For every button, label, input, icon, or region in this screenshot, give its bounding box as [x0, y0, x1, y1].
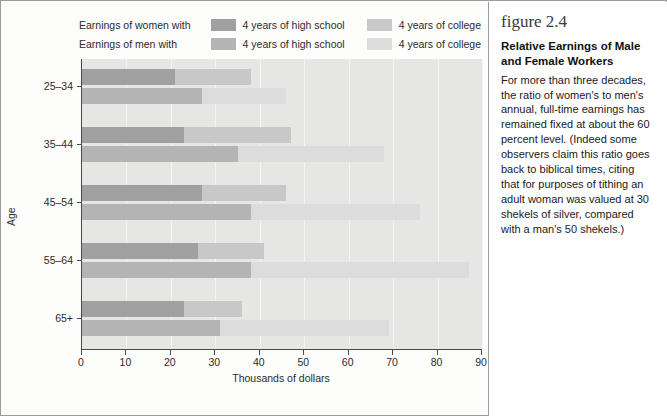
gridline [482, 59, 483, 349]
x-tick-label: 40 [253, 356, 265, 368]
legend-swatch-women-college [367, 19, 392, 31]
bar-men [82, 204, 420, 220]
bar-segment-women-college [184, 127, 291, 143]
bar-men [82, 262, 469, 278]
bar-segment-women-highschool [82, 243, 198, 259]
bar-men [82, 146, 384, 162]
category-label: 25–34 [44, 80, 73, 92]
bar-group [82, 291, 482, 349]
bar-segment-women-highschool [82, 127, 184, 143]
plot-region: 25–3435–4445–5455–6465+ [81, 59, 482, 350]
bar-women [82, 185, 286, 201]
chart-legend: Earnings of women with 4 years of high s… [79, 15, 481, 55]
x-tick-label: 10 [120, 356, 132, 368]
x-tick [170, 350, 171, 355]
x-tick-label: 50 [297, 356, 309, 368]
y-axis-label: Age [5, 207, 17, 226]
x-tick-label: 60 [342, 356, 354, 368]
bar-segment-men-highschool [82, 204, 251, 220]
legend-row-women: Earnings of women with 4 years of high s… [79, 15, 481, 34]
category-tick [77, 86, 82, 87]
figure-number: figure 2.4 [501, 12, 655, 32]
figure-caption-panel: figure 2.4 Relative Earnings of Male and… [488, 2, 667, 416]
bar-segment-women-college [175, 69, 251, 85]
x-tick [348, 350, 349, 355]
legend-label-women-hs: 4 years of high school [243, 19, 345, 31]
legend-lead-women: Earnings of women with [79, 19, 211, 31]
bar-segment-women-college [184, 301, 242, 317]
x-tick-label: 80 [431, 356, 443, 368]
figure-panel: Earnings of women with 4 years of high s… [0, 0, 667, 416]
x-tick [303, 350, 304, 355]
category-tick [77, 260, 82, 261]
x-tick-label: 30 [208, 356, 220, 368]
bar-segment-men-highschool [82, 146, 238, 162]
category-tick [77, 318, 82, 319]
category-label: 45–54 [44, 196, 73, 208]
x-tick-label: 0 [78, 356, 84, 368]
x-axis-label: Thousands of dollars [81, 372, 481, 384]
x-tick [392, 350, 393, 355]
x-tick [481, 350, 482, 355]
legend-lead-men: Earnings of men with [79, 38, 211, 50]
legend-swatch-men-college [367, 38, 392, 50]
bar-segment-men-highschool [82, 262, 251, 278]
x-tick [81, 350, 82, 355]
legend-row-men: Earnings of men with 4 years of high sch… [79, 34, 481, 53]
bar-segment-women-college [202, 185, 286, 201]
x-tick [214, 350, 215, 355]
bar-segment-women-college [198, 243, 265, 259]
bar-segment-men-highschool [82, 320, 220, 336]
bar-segment-men-college [220, 320, 389, 336]
bar-segment-men-college [202, 88, 286, 104]
chart-area: Age 25–3435–4445–5455–6465+ 010203040506… [1, 56, 488, 401]
x-tick [437, 350, 438, 355]
bar-segment-women-highschool [82, 301, 184, 317]
x-tick [259, 350, 260, 355]
bar-group [82, 233, 482, 291]
bar-segment-men-highschool [82, 88, 202, 104]
x-tick-label: 90 [475, 356, 487, 368]
figure-title: Relative Earnings of Male and Female Wor… [501, 39, 655, 70]
x-tick-label: 20 [164, 356, 176, 368]
bar-women [82, 301, 242, 317]
bar-men [82, 88, 286, 104]
bar-group [82, 175, 482, 233]
category-tick [77, 202, 82, 203]
category-label: 65+ [55, 312, 73, 324]
bar-group [82, 117, 482, 175]
legend-label-women-college: 4 years of college [399, 19, 481, 31]
legend-swatch-men-hs [211, 38, 236, 50]
category-tick [77, 144, 82, 145]
x-tick-label: 70 [386, 356, 398, 368]
bar-segment-men-college [251, 262, 469, 278]
figure-description: For more than three decades, the ratio o… [501, 73, 655, 237]
bar-segment-men-college [238, 146, 385, 162]
x-axis: 0102030405060708090 [81, 350, 482, 372]
bar-segment-women-highschool [82, 185, 202, 201]
bar-group [82, 59, 482, 117]
legend-label-men-hs: 4 years of high school [243, 38, 345, 50]
legend-swatch-women-hs [211, 19, 236, 31]
category-label: 35–44 [44, 138, 73, 150]
legend-label-men-college: 4 years of college [399, 38, 481, 50]
bar-segment-women-highschool [82, 69, 175, 85]
x-tick [125, 350, 126, 355]
bar-women [82, 69, 251, 85]
bar-segment-men-college [251, 204, 420, 220]
bar-men [82, 320, 389, 336]
bar-women [82, 243, 264, 259]
bar-women [82, 127, 291, 143]
category-label: 55–64 [44, 254, 73, 266]
